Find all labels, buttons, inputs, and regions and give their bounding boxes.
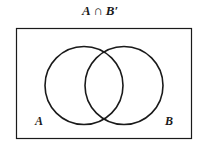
set-b-circle <box>85 47 163 125</box>
venn-diagram: A B <box>0 0 200 153</box>
set-a-circle <box>45 47 123 125</box>
set-b-label: B <box>164 114 173 128</box>
set-a-label: A <box>34 114 43 128</box>
